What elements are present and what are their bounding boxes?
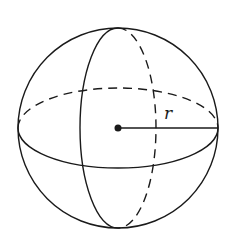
equator-back-dashed [18,88,218,128]
meridian-front-solid [80,28,118,228]
sphere-drawing [0,0,232,250]
radius-label: r [164,105,172,122]
equator-front-solid [18,128,218,168]
sphere-diagram: r [0,0,232,250]
center-point [115,125,122,132]
